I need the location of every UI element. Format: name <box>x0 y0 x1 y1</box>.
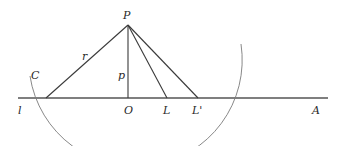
segment-pl-prime <box>128 25 198 98</box>
label-L-prime: L' <box>191 104 202 117</box>
segment-pl <box>128 25 167 98</box>
geometry-diagram: P C r p l O L L' A <box>0 0 343 146</box>
label-p-length: p <box>118 69 125 82</box>
label-L: L <box>162 104 170 117</box>
label-p-point: P <box>122 9 131 22</box>
circle-arc <box>30 44 242 146</box>
label-l: l <box>18 104 22 117</box>
diagram-canvas: P C r p l O L L' A <box>0 0 343 146</box>
label-o: O <box>124 104 133 117</box>
label-c: C <box>31 69 40 82</box>
label-r: r <box>82 50 88 63</box>
label-a: A <box>311 104 320 117</box>
